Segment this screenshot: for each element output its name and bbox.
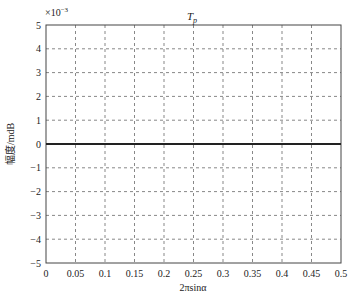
x-tick-label: 0.2 [158, 268, 171, 279]
x-tick-label: 0.45 [303, 268, 321, 279]
y-tick-label: 2 [36, 91, 41, 102]
x-tick-label: 0.1 [99, 268, 112, 279]
y-axis-label: 幅度/mdB [4, 123, 16, 166]
y-tick-label: 4 [36, 43, 41, 54]
y-tick-label: −4 [30, 234, 41, 245]
x-tick-label: 0.35 [244, 268, 262, 279]
y-tick-label: 0 [36, 139, 41, 150]
y-tick-label: −3 [30, 210, 41, 221]
y-tick-label: 5 [36, 20, 41, 31]
x-axis-label: 2πsinα [180, 282, 208, 293]
y-tick-label: −1 [30, 162, 41, 173]
chart: 00.050.10.150.20.250.30.350.40.450.5 543… [0, 0, 354, 301]
y-tick-labels: 543210−1−2−3−4−5 [30, 20, 41, 269]
x-tick-label: 0.4 [276, 268, 289, 279]
x-tick-label: 0.15 [126, 268, 144, 279]
x-tick-label: 0.3 [217, 268, 230, 279]
x-tick-label: 0 [44, 268, 49, 279]
x-tick-label: 0.05 [67, 268, 85, 279]
y-tick-label: 1 [36, 115, 41, 126]
y-tick-label: −5 [30, 258, 41, 269]
y-multiplier: ×10−3 [45, 6, 69, 18]
x-tick-label: 0.5 [335, 268, 348, 279]
x-tick-label: 0.25 [185, 268, 203, 279]
y-tick-label: 3 [36, 67, 41, 78]
y-tick-label: −2 [30, 186, 41, 197]
x-tick-labels: 00.050.10.150.20.250.30.350.40.450.5 [44, 268, 348, 279]
chart-title: Tp [187, 10, 197, 25]
